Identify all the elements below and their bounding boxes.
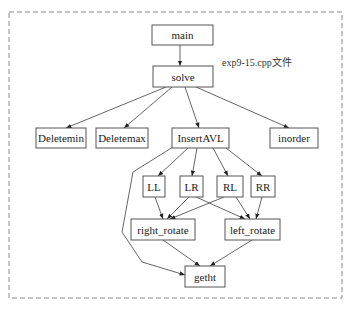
edge-solve-to-InsertAVL [185,87,199,128]
node-label: Deletemax [98,132,146,144]
node-label: solve [171,71,194,83]
edge-solve-to-inorder [196,87,289,128]
edge-InsertAVL-to-LL [158,148,188,176]
node-label: LR [184,181,199,193]
node-InsertAVL: InsertAVL [172,128,229,148]
node-left_rotate: left_rotate [225,219,280,240]
node-label: main [172,29,194,41]
node-inorder: inorder [270,128,318,148]
node-label: LL [147,181,161,193]
edge-InsertAVL-to-RR [226,148,262,176]
node-label: RL [223,181,237,193]
node-Deletemin: Deletemin [36,128,86,148]
node-RR: RR [251,176,275,197]
edge-InsertAVL-to-LR [192,148,197,176]
node-getht: getht [185,266,225,287]
edge-RR-to-left_rotate [256,197,262,219]
node-LL: LL [143,176,165,197]
node-label: Deletemin [38,132,84,144]
edge-LL-to-right_rotate [155,197,163,219]
node-LR: LR [180,176,203,197]
edge-left_rotate-to-getht [210,240,252,266]
call-graph-svg: mainsolveDeleteminDeletemaxInsertAVLinor… [0,0,350,310]
diagram-canvas: mainsolveDeleteminDeletemaxInsertAVLinor… [0,0,350,310]
file-caption: exp9-15.cpp文件 [222,56,292,68]
edge-InsertAVL-to-RL [213,148,228,176]
edge-right_rotate-to-getht [163,240,200,266]
node-RL: RL [217,176,243,197]
node-Deletemax: Deletemax [96,128,148,148]
file-boundary-frame [9,12,342,298]
node-label: getht [194,271,216,283]
edge-solve-to-Deletemin [66,87,166,128]
node-solve: solve [153,66,213,87]
edge-solve-to-Deletemax [124,87,172,128]
node-right_rotate: right_rotate [131,219,195,240]
node-label: InsertAVL [177,132,224,144]
node-label: right_rotate [137,224,188,236]
node-label: RR [256,181,271,193]
node-main: main [152,25,213,45]
node-label: left_rotate [230,224,275,236]
node-label: inorder [278,132,310,144]
